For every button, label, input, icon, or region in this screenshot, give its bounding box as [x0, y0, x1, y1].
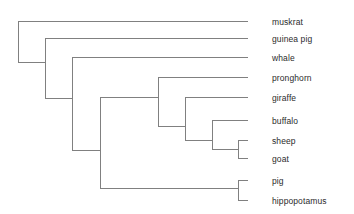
- tip-label-pronghorn: pronghorn: [272, 73, 312, 83]
- tip-label-whale: whale: [272, 53, 295, 63]
- tip-label-goat: goat: [272, 154, 289, 164]
- cladogram-figure: muskratguinea pigwhalepronghorngiraffebu…: [0, 0, 354, 214]
- tip-label-giraffe: giraffe: [272, 93, 296, 103]
- horizontal-branch-layer: [18, 22, 248, 201]
- cladogram-canvas: [0, 0, 354, 214]
- tip-label-muskrat: muskrat: [272, 17, 303, 27]
- vertical-connector-layer: [19, 21, 239, 201]
- tip-label-guinea-pig: guinea pig: [272, 34, 312, 44]
- tip-label-sheep: sheep: [272, 136, 296, 146]
- tip-label-buffalo: buffalo: [272, 116, 298, 126]
- tip-label-hippopotamus: hippopotamus: [272, 196, 327, 206]
- tip-label-pig: pig: [272, 176, 284, 186]
